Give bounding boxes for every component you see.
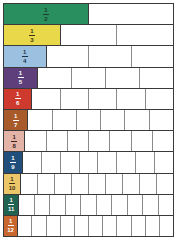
fraction-denominator: 4 (23, 58, 26, 64)
unit-fraction-label-cell: 111 (4, 195, 19, 215)
empty-fraction-cell (123, 174, 140, 194)
empty-fraction-cell (23, 152, 42, 172)
fraction-row-1-2: 12 (4, 4, 173, 25)
unit-fraction-label-cell: 18 (4, 131, 25, 151)
empty-fraction-cell (97, 195, 112, 215)
empty-fraction-cell (106, 68, 140, 88)
empty-fraction-cell (159, 195, 173, 215)
fraction-bar (9, 183, 15, 184)
empty-fraction-cell (150, 110, 173, 130)
fraction-label: 12 (43, 7, 49, 22)
empty-fraction-cell (25, 131, 46, 151)
fraction-numerator: 1 (10, 176, 13, 182)
fraction-label: 19 (10, 155, 16, 170)
empty-fraction-cell (89, 174, 106, 194)
fraction-bar (43, 14, 49, 15)
fraction-numerator: 1 (12, 134, 15, 140)
empty-fraction-cell (101, 110, 125, 130)
fraction-row-1-11: 111 (4, 195, 173, 216)
empty-fraction-cell (35, 195, 50, 215)
fraction-label: 16 (15, 91, 21, 106)
empty-fraction-cell (117, 216, 131, 236)
fraction-bar (8, 204, 14, 205)
fraction-denominator: 11 (8, 206, 14, 212)
empty-fraction-cell (80, 152, 99, 172)
fraction-label: 110 (9, 176, 16, 191)
fraction-row-1-6: 16 (4, 89, 173, 110)
empty-fraction-cell (53, 110, 77, 130)
empty-fraction-cell (132, 131, 153, 151)
fraction-label: 18 (11, 134, 17, 149)
empty-fraction-cell (106, 174, 123, 194)
fraction-bar (10, 162, 16, 163)
empty-fraction-cell (61, 216, 75, 236)
empty-fraction-cell (72, 174, 89, 194)
fraction-denominator: 7 (14, 122, 17, 128)
unit-fraction-label-cell: 15 (4, 68, 38, 88)
empty-fraction-cell (18, 216, 32, 236)
fraction-label: 15 (18, 70, 24, 85)
empty-fraction-cell (140, 174, 157, 194)
empty-fraction-cell (136, 152, 155, 172)
empty-fraction-cell (61, 25, 118, 45)
fraction-label: 14 (22, 49, 28, 64)
fraction-row-1-12: 112 (4, 216, 173, 236)
fraction-label: 112 (7, 218, 14, 233)
fraction-denominator: 9 (11, 164, 14, 170)
empty-fraction-cell (117, 89, 145, 109)
empty-fraction-cell (117, 152, 136, 172)
fraction-row-1-5: 15 (4, 68, 173, 89)
empty-fraction-cell (38, 174, 55, 194)
empty-fraction-cell (72, 68, 106, 88)
empty-fraction-cell (38, 68, 72, 88)
fraction-numerator: 1 (14, 113, 17, 119)
empty-fraction-cell (112, 195, 127, 215)
fraction-row-1-10: 110 (4, 174, 173, 195)
fraction-numerator: 1 (44, 7, 47, 13)
fraction-label: 17 (13, 113, 19, 128)
empty-fraction-cell (143, 195, 158, 215)
empty-fraction-cell (42, 152, 61, 172)
unit-fraction-label-cell: 112 (4, 216, 18, 236)
fraction-row-1-4: 14 (4, 46, 173, 67)
fraction-wall: 1213141516171819110111112 (3, 3, 174, 237)
empty-fraction-cell (75, 216, 89, 236)
fraction-denominator: 10 (9, 185, 16, 191)
empty-fraction-cell (153, 131, 173, 151)
fraction-numerator: 1 (11, 155, 14, 161)
empty-fraction-cell (89, 89, 117, 109)
fraction-numerator: 1 (10, 197, 13, 203)
fraction-denominator: 8 (12, 143, 15, 149)
fraction-label: 111 (8, 197, 14, 212)
fraction-label: 13 (29, 28, 35, 43)
fraction-row-1-3: 13 (4, 25, 173, 46)
fraction-numerator: 1 (16, 91, 19, 97)
unit-fraction-label-cell: 16 (4, 89, 32, 109)
empty-fraction-cell (61, 89, 89, 109)
empty-fraction-cell (47, 131, 68, 151)
empty-fraction-cell (146, 89, 173, 109)
empty-fraction-cell (89, 216, 103, 236)
fraction-row-1-8: 18 (4, 131, 173, 152)
empty-fraction-cell (146, 216, 160, 236)
fraction-bar (29, 35, 35, 36)
empty-fraction-cell (32, 216, 46, 236)
fraction-bar (22, 56, 28, 57)
empty-fraction-cell (66, 195, 81, 215)
empty-fraction-cell (47, 216, 61, 236)
empty-fraction-cell (125, 110, 149, 130)
empty-fraction-cell (89, 46, 132, 66)
fraction-denominator: 2 (44, 16, 47, 22)
empty-fraction-cell (160, 216, 173, 236)
empty-fraction-cell (19, 195, 34, 215)
empty-fraction-cell (89, 131, 110, 151)
fraction-numerator: 1 (30, 28, 33, 34)
empty-fraction-cell (117, 25, 173, 45)
unit-fraction-label-cell: 13 (4, 25, 61, 45)
fraction-bar (8, 225, 14, 226)
fraction-bar (13, 120, 19, 121)
fraction-row-1-9: 19 (4, 152, 173, 173)
fraction-denominator: 12 (7, 227, 14, 233)
empty-fraction-cell (110, 131, 131, 151)
empty-fraction-cell (132, 216, 146, 236)
